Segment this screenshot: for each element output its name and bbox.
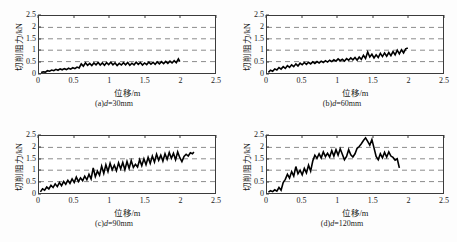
x-tick-label: 1.5 [140, 197, 150, 205]
y-axis-label: 切削阻力/kN [240, 16, 254, 78]
y-tick-label: 2 [32, 143, 36, 151]
x-tick-mark [372, 15, 373, 18]
y-tick-mark [266, 38, 269, 39]
x-tick-mark [144, 135, 145, 138]
y-tick-label: 0.5 [254, 178, 264, 186]
x-tick-label: 1.5 [140, 77, 150, 85]
data-series-line [268, 138, 399, 192]
gridlines [39, 27, 215, 61]
y-tick-mark [266, 50, 269, 51]
y-tick-mark [38, 182, 41, 183]
x-tick-label: 0 [264, 197, 268, 205]
x-tick-label: 2 [178, 197, 182, 205]
y-tick-mark [38, 170, 41, 171]
plot-box [38, 15, 216, 74]
caption-prefix: (a) [95, 99, 104, 108]
chart-panel-a: 切削阻力/kN 00.511.522.5 00.511.522.5 位移/m (… [0, 0, 228, 121]
plot-area-a: 00.511.522.5 00.511.522.5 [38, 15, 216, 74]
y-tick-mark [38, 50, 41, 51]
caption-prefix: (b) [323, 99, 332, 108]
x-tick-label: 2.5 [211, 77, 221, 85]
x-tick-mark [216, 135, 217, 138]
x-tick-mark [266, 15, 267, 18]
y-tick-label: 1.5 [254, 155, 264, 163]
caption-value: =60mm [336, 99, 361, 108]
y-axis-label: 切削阻力/kN [12, 16, 26, 78]
x-tick-label: 0.5 [297, 197, 307, 205]
caption-prefix: (c) [95, 219, 104, 228]
caption-value: =90mm [108, 219, 133, 228]
x-tick-mark [109, 15, 110, 18]
caption-prefix: (d) [321, 219, 330, 228]
y-tick-label: 1 [32, 46, 36, 54]
y-tick-label: 1 [260, 46, 264, 54]
x-tick-mark [38, 135, 39, 138]
panel-caption-b: (b)d=60mm [228, 99, 456, 108]
figure-container: 切削阻力/kN 00.511.522.5 00.511.522.5 位移/m (… [0, 0, 457, 242]
x-tick-mark [180, 15, 181, 18]
x-tick-mark [180, 135, 181, 138]
x-tick-mark [38, 15, 39, 18]
y-axis-label: 切削阻力/kN [240, 136, 254, 198]
chart-panel-d: 切削阻力/kN 00.511.522.5 00.511.522.5 位移/m (… [228, 120, 456, 241]
chart-svg-d [267, 136, 443, 193]
y-tick-label: 1.5 [26, 155, 36, 163]
caption-value: =120mm [334, 219, 363, 228]
y-tick-label: 1.5 [26, 35, 36, 43]
chart-panel-b: 切削阻力/kN 00.511.522.5 00.511.522.5 位移/m (… [228, 0, 456, 121]
panel-caption-c: (c)d=90mm [0, 219, 228, 228]
x-tick-mark [73, 135, 74, 138]
data-series-line [40, 152, 193, 192]
x-tick-label: 1 [107, 77, 111, 85]
x-tick-label: 1.5 [368, 77, 378, 85]
x-tick-mark [109, 135, 110, 138]
y-tick-label: 0.5 [254, 58, 264, 66]
x-tick-label: 1 [335, 197, 339, 205]
x-tick-label: 0 [36, 197, 40, 205]
y-tick-label: 2.5 [254, 131, 264, 139]
x-tick-label: 1 [335, 77, 339, 85]
x-tick-mark [301, 15, 302, 18]
y-tick-label: 2 [260, 143, 264, 151]
x-axis-label: 位移/m [266, 206, 444, 218]
x-tick-mark [216, 15, 217, 18]
x-tick-mark [301, 135, 302, 138]
chart-svg-a [39, 16, 215, 73]
caption-value: =30mm [108, 99, 133, 108]
y-tick-label: 1 [32, 166, 36, 174]
y-tick-mark [266, 182, 269, 183]
y-tick-mark [38, 62, 41, 63]
y-tick-label: 0.5 [26, 178, 36, 186]
x-tick-label: 2.5 [439, 197, 449, 205]
x-tick-mark [73, 15, 74, 18]
x-tick-label: 2.5 [211, 197, 221, 205]
data-series-line [268, 48, 407, 72]
x-tick-mark [408, 135, 409, 138]
x-axis-label: 位移/m [38, 206, 216, 218]
y-tick-mark [38, 146, 41, 147]
plot-box [266, 135, 444, 194]
y-tick-mark [266, 170, 269, 171]
x-tick-label: 0 [36, 77, 40, 85]
y-tick-label: 1 [260, 166, 264, 174]
x-tick-mark [266, 135, 267, 138]
x-axis-label: 位移/m [266, 86, 444, 98]
x-tick-mark [337, 15, 338, 18]
x-tick-mark [408, 15, 409, 18]
y-tick-mark [266, 62, 269, 63]
y-tick-mark [266, 158, 269, 159]
x-tick-mark [337, 135, 338, 138]
x-tick-label: 2.5 [439, 77, 449, 85]
y-tick-label: 2.5 [26, 131, 36, 139]
x-axis-label: 位移/m [38, 86, 216, 98]
x-tick-mark [372, 135, 373, 138]
plot-area-c: 00.511.522.5 00.511.522.5 [38, 135, 216, 194]
y-tick-mark [38, 194, 41, 195]
y-tick-label: 2.5 [254, 11, 264, 19]
y-tick-mark [38, 158, 41, 159]
chart-panel-c: 切削阻力/kN 00.511.522.5 00.511.522.5 位移/m (… [0, 120, 228, 241]
plot-box [266, 15, 444, 74]
x-tick-label: 2 [406, 197, 410, 205]
x-tick-label: 1.5 [368, 197, 378, 205]
y-tick-mark [266, 74, 269, 75]
